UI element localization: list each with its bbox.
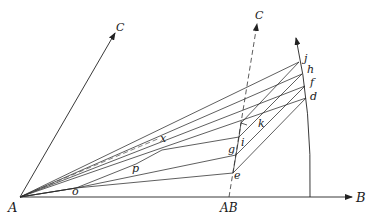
label-d: d [310,90,317,103]
label-B: B [355,190,366,205]
label-o: o [72,185,79,198]
label-p: p [132,162,139,175]
label-AB: AB [219,201,238,215]
label-x: x [160,132,167,145]
axis-a-c [20,33,115,197]
label-e: e [234,169,241,182]
label-A: A [7,200,17,215]
label-C-right: C [255,9,264,22]
label-h: h [307,63,314,76]
label-C-left: C [116,21,125,34]
label-g: g [228,143,235,156]
parallel-segments [233,62,306,173]
k-pointer [241,123,247,125]
vector-diagram: A B C C AB j h f d k i g e x p o [0,0,373,220]
label-k: k [258,117,265,130]
label-i: i [241,136,245,149]
label-f: f [309,76,316,89]
